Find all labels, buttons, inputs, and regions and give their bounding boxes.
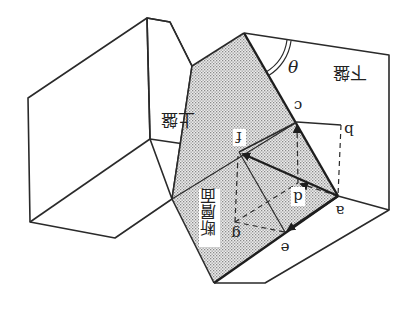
point-label-a: a (335, 202, 344, 220)
fault-plane-label: 断層面 (200, 188, 219, 236)
hanging-wall-label: 上盤 (161, 110, 195, 130)
point-label-e: e (280, 239, 289, 257)
footwall-line-c-b (297, 122, 341, 125)
fault-diagram: c b f d a e g θ 下盤 上盤 断層面 (0, 0, 413, 311)
dip-angle-marker (266, 40, 291, 76)
dip-arc-outer (268, 41, 291, 76)
point-label-c: c (294, 97, 302, 115)
dip-angle-label: θ (288, 56, 298, 76)
dip-arc-inner (266, 40, 287, 72)
point-label-b: b (344, 121, 354, 139)
point-label-g: g (231, 225, 241, 243)
fault-plane-label-group: 断層面 (200, 188, 219, 236)
hanging-wall-vertical-edge (147, 18, 150, 139)
fault-diagram-svg: c b f d a e g θ 下盤 上盤 断層面 (0, 0, 413, 311)
point-label-d: d (293, 188, 303, 206)
hanging-wall-lower-edge (30, 139, 150, 222)
footwall-label: 下盤 (333, 63, 367, 83)
dashed-b-a (338, 125, 341, 196)
